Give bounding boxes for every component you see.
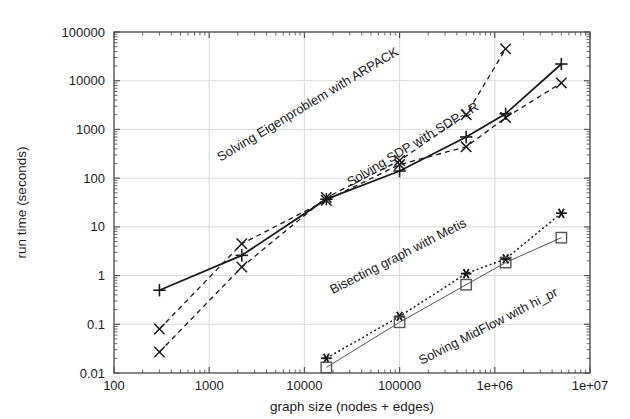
curve-label: Solving MidFlow with hi_pr: [416, 284, 561, 368]
y-tick-label: 1: [98, 268, 105, 283]
curve-label: Solving SDP with SDP-LR: [344, 99, 481, 190]
marker-square: [556, 232, 566, 242]
x-tick-label: 1e+06: [477, 378, 514, 393]
curve-label: Solving Eigenproblem with ARPACK: [214, 44, 401, 164]
y-tick-label: 10000: [69, 73, 105, 88]
series-2: [154, 78, 566, 334]
y-tick-label: 0.01: [80, 366, 105, 381]
x-tick-label: 1000: [195, 378, 224, 393]
curve-annotations: Solving Eigenproblem with ARPACKSolving …: [214, 44, 560, 368]
x-tick-labels: 1001000100001000001e+061e+07: [103, 378, 608, 393]
series-line: [159, 83, 561, 329]
chart-figure: 1001000100001000001e+061e+07 0.010.11101…: [0, 0, 630, 419]
y-tick-label: 100: [83, 171, 105, 186]
y-tick-label: 1000: [76, 122, 105, 137]
x-tick-label: 1e+07: [572, 378, 609, 393]
x-tick-label: 100: [103, 378, 125, 393]
y-tick-labels: 0.010.1110100100010000100000: [62, 25, 105, 381]
x-tick-label: 10000: [286, 378, 322, 393]
y-tick-label: 10: [91, 219, 105, 234]
y-tick-label: 0.1: [87, 317, 105, 332]
x-axis-title: graph size (nodes + edges): [270, 399, 434, 414]
y-axis-title: run time (seconds): [14, 147, 29, 259]
y-tick-label: 100000: [62, 25, 105, 40]
x-tick-label: 100000: [378, 378, 421, 393]
axis-titles: graph size (nodes + edges)run time (seco…: [14, 147, 434, 414]
log-log-runtime-plot: 1001000100001000001e+061e+07 0.010.11101…: [0, 0, 630, 419]
